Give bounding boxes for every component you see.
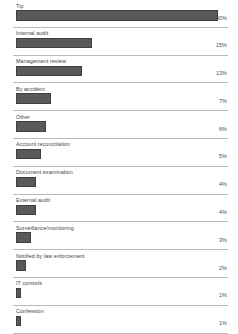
- bar-value-label: 40%: [216, 15, 227, 21]
- bar[interactable]: [16, 177, 36, 188]
- bar-category-label: By accident: [16, 86, 45, 92]
- bar[interactable]: [16, 66, 82, 77]
- bar-category-label: Tip: [16, 3, 24, 9]
- bar-category-label: Surveillance/monitoring: [16, 225, 74, 231]
- bar-category-label: Notified by law enforcement: [16, 253, 85, 259]
- bar[interactable]: [16, 38, 92, 49]
- bar-value-label: 2%: [219, 265, 227, 271]
- bar-category-label: IT controls: [16, 280, 42, 286]
- bar-value-label: 6%: [219, 126, 227, 132]
- bar-category-label: Account reconciliation: [16, 141, 70, 147]
- bar-value-label: 7%: [219, 98, 227, 104]
- chart-row[interactable]: Management review 13%: [0, 56, 238, 84]
- bar-category-label: External audit: [16, 197, 50, 203]
- bar-track: [16, 93, 228, 104]
- bar-track: [16, 316, 228, 327]
- bar-track: [16, 260, 228, 271]
- chart-row[interactable]: Other 6%: [0, 111, 238, 139]
- bar[interactable]: [16, 93, 51, 104]
- bar[interactable]: [16, 232, 31, 243]
- bar-category-label: Confession: [16, 308, 44, 314]
- bar-value-label: 4%: [219, 209, 227, 215]
- bar-track: [16, 66, 228, 77]
- chart-row[interactable]: External audit 4%: [0, 195, 238, 223]
- bar[interactable]: [16, 316, 21, 327]
- bar[interactable]: [16, 205, 36, 216]
- bar-value-label: 1%: [219, 320, 227, 326]
- bar-value-label: 3%: [219, 237, 227, 243]
- chart-row[interactable]: Account reconciliation 5%: [0, 139, 238, 167]
- row-separator: [13, 333, 228, 334]
- bar-value-label: 13%: [216, 70, 227, 76]
- chart-row[interactable]: Tip 40%: [0, 0, 238, 28]
- chart-row[interactable]: IT controls 1%: [0, 278, 238, 306]
- bar-category-label: Document examination: [16, 169, 73, 175]
- bar-track: [16, 10, 228, 21]
- bar-value-label: 15%: [216, 42, 227, 48]
- bar-category-label: Management review: [16, 58, 66, 64]
- bar[interactable]: [16, 260, 26, 271]
- bar-track: [16, 121, 228, 132]
- bar[interactable]: [16, 149, 41, 160]
- chart-row[interactable]: Notified by law enforcement 2%: [0, 250, 238, 278]
- bar-value-label: 1%: [219, 292, 227, 298]
- bar[interactable]: [16, 288, 21, 299]
- bar-track: [16, 177, 228, 188]
- bar[interactable]: [16, 10, 218, 21]
- chart-row[interactable]: Internal audit 15%: [0, 28, 238, 56]
- bar-track: [16, 232, 228, 243]
- chart-row[interactable]: By accident 7%: [0, 83, 238, 111]
- bar-track: [16, 288, 228, 299]
- chart-row[interactable]: Surveillance/monitoring 3%: [0, 222, 238, 250]
- bar-track: [16, 149, 228, 160]
- chart-row[interactable]: Confession 1%: [0, 306, 238, 334]
- bar-value-label: 5%: [219, 153, 227, 159]
- bar-track: [16, 38, 228, 49]
- chart-row[interactable]: Document examination 4%: [0, 167, 238, 195]
- bar-category-label: Other: [16, 114, 30, 120]
- horizontal-bar-chart: Tip 40% Internal audit 15% Management re…: [0, 0, 238, 334]
- bar[interactable]: [16, 121, 46, 132]
- bar-value-label: 4%: [219, 181, 227, 187]
- bar-track: [16, 205, 228, 216]
- bar-category-label: Internal audit: [16, 30, 48, 36]
